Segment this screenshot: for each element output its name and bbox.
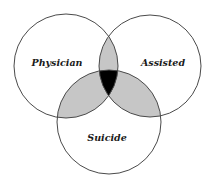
label-suicide: Suicide bbox=[87, 132, 126, 143]
label-assisted: Assisted bbox=[140, 57, 185, 68]
venn-diagram: Physician Assisted Suicide bbox=[0, 0, 210, 184]
label-physician: Physician bbox=[31, 57, 83, 68]
